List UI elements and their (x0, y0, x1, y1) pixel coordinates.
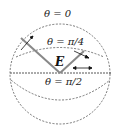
sphere-diagram: θ = 0 θ = π/4 E θ = π/2 (0, 0, 122, 134)
equator-double-arrow-icon (73, 67, 92, 70)
label-theta-pi4: θ = π/4 (47, 36, 84, 47)
label-field-e: E (54, 55, 65, 69)
label-theta-0: θ = 0 (44, 8, 72, 19)
label-theta-pi2: θ = π/2 (45, 76, 82, 87)
